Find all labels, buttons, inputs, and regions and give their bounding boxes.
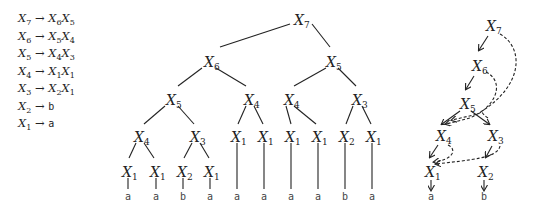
tree-node: X1 xyxy=(257,129,274,147)
tree-node: X2 xyxy=(176,164,193,182)
diagram-canvas: X7X6X5X5X4X4X3X4X3X1X1X1X1X2X1X1X1X2X1 a… xyxy=(0,0,540,210)
derivation-tree-nodes: X7X6X5X5X4X4X3X4X3X1X1X1X1X2X1X1X1X2X1 xyxy=(121,12,382,182)
dag-leaf: b xyxy=(481,191,487,202)
tree-node: X1 xyxy=(365,129,382,147)
dag-node: X7 xyxy=(485,18,502,36)
dag-node: X2 xyxy=(477,164,494,182)
dag-node: X4 xyxy=(435,128,452,146)
derivation-tree-leaves: aabaaaaaba xyxy=(125,191,375,202)
tree-leaf: b xyxy=(180,191,186,202)
tree-node: X4 xyxy=(283,92,300,110)
dag-node: X5 xyxy=(459,96,476,114)
tree-node: X1 xyxy=(284,129,301,147)
tree-node: X1 xyxy=(203,164,220,182)
tree-leaf: b xyxy=(342,191,348,202)
tree-node: X4 xyxy=(243,92,260,110)
tree-node: X3 xyxy=(351,92,368,110)
tree-node: X7 xyxy=(293,12,310,30)
tree-leaf: a xyxy=(369,191,375,202)
tree-leaf: a xyxy=(153,191,159,202)
tree-node: X1 xyxy=(121,164,138,182)
tree-leaf: a xyxy=(125,191,131,202)
tree-leaf: a xyxy=(288,191,294,202)
tree-node: X5 xyxy=(165,92,182,110)
tree-leaf: a xyxy=(261,191,267,202)
tree-node: X1 xyxy=(311,129,328,147)
tree-node: X1 xyxy=(230,129,247,147)
tree-node: X4 xyxy=(133,129,150,147)
dag-node: X3 xyxy=(487,128,504,146)
tree-leaf: a xyxy=(315,191,321,202)
dag-nodes: X7X6X5X4X3X1X2 xyxy=(424,18,504,182)
tree-node: X3 xyxy=(189,129,206,147)
tree-node: X2 xyxy=(338,129,355,147)
tree-node: X6 xyxy=(203,54,220,72)
dag-leaf: a xyxy=(428,191,434,202)
dag-leaves: ab xyxy=(428,191,487,202)
dag-node: X1 xyxy=(424,164,441,182)
tree-leaf: a xyxy=(207,191,213,202)
tree-leaf: a xyxy=(234,191,240,202)
tree-node: X5 xyxy=(325,54,342,72)
dag-node: X6 xyxy=(471,58,488,76)
tree-node: X1 xyxy=(149,164,166,182)
